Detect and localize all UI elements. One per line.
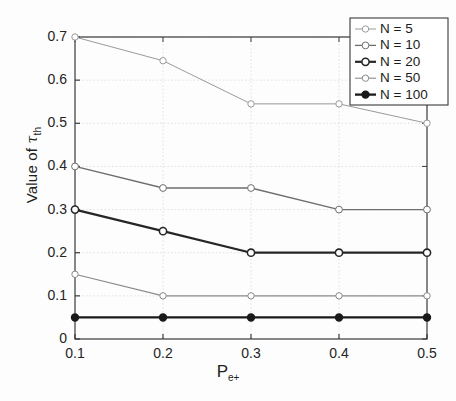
legend-marker-3 [362,75,368,81]
legend-label-0: N = 5 [380,21,413,36]
y-axis-tick-label-5: 0.5 [33,114,67,130]
series-marker-4-0 [72,314,79,321]
series-marker-0-3 [336,101,342,107]
series-marker-4-1 [160,314,167,321]
y-axis-label-symbol: τ [24,135,40,143]
series-marker-3-3 [336,293,342,299]
series-marker-2-3 [335,249,342,256]
x-axis-label-text: P [217,362,228,381]
series-marker-1-3 [336,206,343,213]
series-marker-0-2 [248,101,254,107]
series-marker-3-2 [248,293,254,299]
legend-marker-0 [362,26,368,32]
y-axis-label-text: Value of [23,148,40,204]
y-axis-tick-label-4: 0.4 [33,157,67,173]
legend-marker-2 [362,58,369,65]
series-marker-1-4 [424,206,431,213]
series-marker-2-1 [159,228,166,235]
x-axis-tick-label-0: 0.1 [55,345,95,361]
series-marker-3-4 [424,293,430,299]
series-marker-3-1 [160,293,166,299]
y-axis-tick-label-0: 0 [33,330,67,346]
y-axis-tick-label-1: 0.1 [33,287,67,303]
x-axis-tick-label-4: 0.5 [407,345,447,361]
x-axis-tick-label-3: 0.4 [319,345,359,361]
x-axis-tick-label-2: 0.3 [231,345,271,361]
series-marker-1-2 [248,185,255,192]
figure-canvas: Value of τth Pe+ 00.10.20.30.40.50.60.70… [0,0,456,401]
y-axis-tick-label-6: 0.6 [33,71,67,87]
y-axis-tick-label-3: 0.3 [33,201,67,217]
series-marker-4-4 [424,314,431,321]
x-axis-tick-label-1: 0.2 [143,345,183,361]
x-axis-label-subscript: e+ [228,372,239,383]
series-marker-3-0 [72,271,78,277]
series-marker-0-4 [424,120,430,126]
legend-marker-4 [362,91,369,98]
series-marker-4-2 [248,314,255,321]
series-marker-2-0 [71,206,78,213]
series-marker-1-0 [72,163,79,170]
legend-label-1: N = 10 [380,37,420,52]
y-axis-tick-label-2: 0.2 [33,244,67,260]
legend-marker-1 [362,42,369,49]
x-axis-label: Pe+ [0,362,456,383]
series-marker-2-2 [247,249,254,256]
series-marker-0-0 [72,34,78,40]
series-marker-2-4 [423,249,430,256]
y-axis-tick-label-7: 0.7 [33,28,67,44]
series-marker-1-1 [160,185,167,192]
series-marker-0-1 [160,58,166,64]
legend-label-3: N = 50 [380,70,420,85]
legend-label-2: N = 20 [380,54,420,69]
legend-label-4: N = 100 [380,87,428,102]
series-marker-4-3 [336,314,343,321]
